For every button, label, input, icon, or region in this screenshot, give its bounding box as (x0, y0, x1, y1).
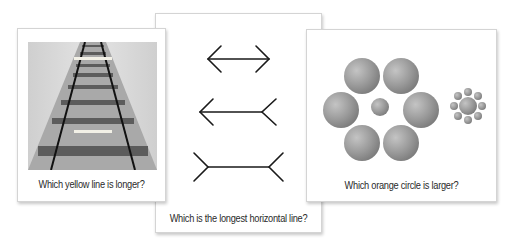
bottom-line (74, 130, 112, 133)
railroad-track-icon (28, 42, 157, 170)
center-circle-left (371, 98, 389, 116)
caption-ponzo: Which yellow line is longer? (27, 178, 156, 190)
ebbinghaus-circles-icon (307, 30, 498, 170)
caption-muller-lyer: Which is the longest horizontal line? (166, 212, 311, 224)
card-muller-lyer: Which is the longest horizontal line? (155, 13, 322, 233)
top-line (74, 57, 112, 60)
caption-ebbinghaus: Which orange circle is larger? (318, 179, 484, 191)
center-circle-right (459, 97, 477, 115)
card-ponzo: Which yellow line is longer? (17, 28, 166, 202)
card-ebbinghaus: Which orange circle is larger? (306, 29, 497, 202)
muller-lyer-arrows-icon (156, 14, 323, 204)
